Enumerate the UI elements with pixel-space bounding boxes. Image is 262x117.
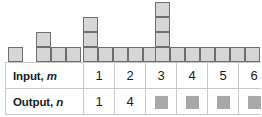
output-row-cell-3[interactable] — [146, 89, 177, 115]
pattern-square — [113, 47, 128, 62]
table-body: Input, m123456Output, n14 — [6, 63, 262, 115]
pattern-square — [83, 47, 98, 62]
pattern-square — [170, 47, 185, 62]
pattern-square — [8, 47, 23, 62]
input-row-cell-6: 6 — [239, 63, 262, 89]
output-row: Output, n14 — [6, 89, 262, 115]
answer-placeholder[interactable] — [155, 96, 168, 109]
input-row-cell-5: 5 — [208, 63, 239, 89]
row-label-variable: m — [47, 70, 57, 82]
pattern-square — [98, 47, 113, 62]
output-row-cell-1: 1 — [84, 89, 115, 115]
input-row-cell-2: 2 — [115, 63, 146, 89]
output-row-label: Output, n — [6, 89, 84, 115]
pattern-square — [128, 47, 143, 62]
pattern-square — [155, 32, 170, 47]
pattern-square — [215, 47, 230, 62]
pattern-square — [155, 47, 170, 62]
figure-4 — [155, 2, 260, 62]
row-label-variable: n — [56, 96, 63, 108]
answer-placeholder[interactable] — [217, 96, 230, 109]
row-label-text: Output, — [13, 96, 56, 108]
input-row: Input, m123456 — [6, 63, 262, 89]
pattern-square — [245, 47, 260, 62]
row-label-text: Input, — [13, 70, 47, 82]
figure-2 — [36, 32, 81, 62]
answer-placeholder[interactable] — [248, 96, 261, 109]
pattern-square — [200, 47, 215, 62]
figure-1 — [8, 47, 23, 62]
input-row-cell-3: 3 — [146, 63, 177, 89]
pattern-square — [155, 2, 170, 17]
input-output-table: Input, m123456Output, n14 — [5, 62, 261, 115]
pattern-square — [83, 17, 98, 32]
output-row-cell-2: 4 — [115, 89, 146, 115]
input-row-cell-1: 1 — [84, 63, 115, 89]
output-row-cell-6[interactable] — [239, 89, 262, 115]
pattern-square — [185, 47, 200, 62]
output-row-cell-4[interactable] — [177, 89, 208, 115]
pattern-square — [51, 47, 66, 62]
pattern-square — [83, 32, 98, 47]
figure-3 — [83, 17, 158, 62]
pattern-figures-area — [0, 0, 261, 62]
pattern-square — [230, 47, 245, 62]
output-row-cell-5[interactable] — [208, 89, 239, 115]
pattern-square — [36, 32, 51, 47]
pattern-square — [155, 17, 170, 32]
input-row-label: Input, m — [6, 63, 84, 89]
pattern-square — [66, 47, 81, 62]
input-row-cell-4: 4 — [177, 63, 208, 89]
answer-placeholder[interactable] — [186, 96, 199, 109]
pattern-square — [36, 47, 51, 62]
